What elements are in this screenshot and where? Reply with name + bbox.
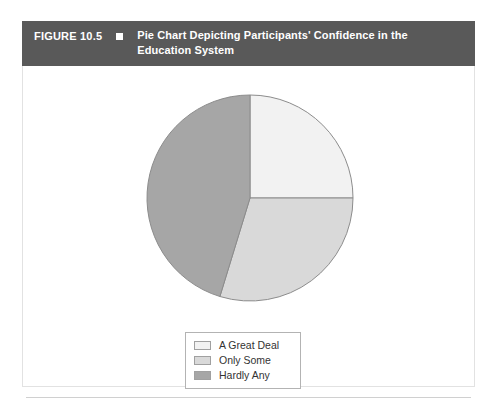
chart-legend: A Great Deal Only Some Hardly Any [185, 332, 301, 389]
figure-number-label: FIGURE 10.5 [34, 28, 102, 43]
legend-swatch-hardly-any [194, 371, 211, 380]
legend-item-only-some[interactable]: Only Some [194, 353, 292, 367]
legend-label-hardly-any: Hardly Any [219, 369, 270, 381]
bottom-divider [26, 397, 471, 398]
legend-swatch-a-great-deal [194, 341, 211, 350]
legend-swatch-only-some [194, 356, 211, 365]
pie-slice-group [147, 95, 353, 301]
figure-title: Pie Chart Depicting Participants' Confid… [137, 28, 437, 58]
pie-slice-a-great-deal[interactable] [250, 95, 353, 198]
square-marker-icon [116, 33, 123, 40]
legend-label-only-some: Only Some [219, 354, 271, 366]
legend-item-a-great-deal[interactable]: A Great Deal [194, 338, 292, 352]
legend-item-hardly-any[interactable]: Hardly Any [194, 368, 292, 382]
figure-caption-bar: FIGURE 10.5 Pie Chart Depicting Particip… [22, 21, 475, 66]
legend-label-a-great-deal: A Great Deal [219, 339, 279, 351]
